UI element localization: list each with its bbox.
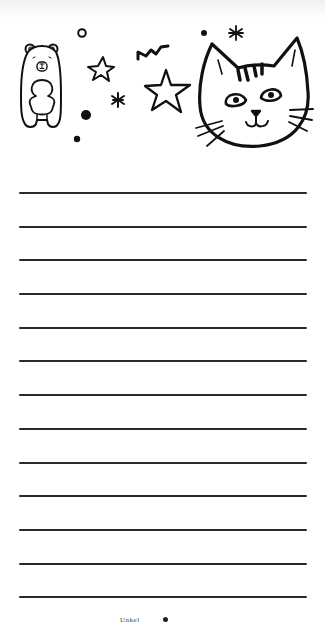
ruled-line [19,327,307,329]
ruled-line [19,360,307,362]
footer-brand-text: Unkel [120,616,140,624]
ruled-line [19,259,307,261]
ruled-line [19,226,307,228]
ruled-line [19,293,307,295]
ruled-lines-area [0,0,325,625]
ruled-line [19,394,307,396]
ruled-line [19,495,307,497]
ruled-line [19,563,307,565]
ruled-line [19,192,307,194]
ruled-line [19,596,307,598]
footer-logo-icon [163,617,168,622]
notepad-page: Unkel [0,0,325,625]
ruled-line [19,529,307,531]
ruled-line [19,462,307,464]
ruled-line [19,428,307,430]
